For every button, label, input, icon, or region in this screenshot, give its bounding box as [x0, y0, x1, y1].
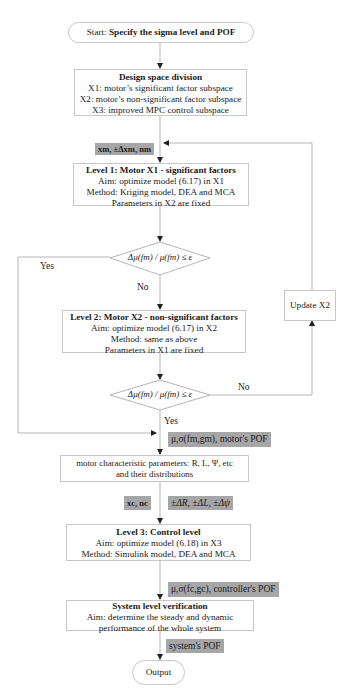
controller-pof-label: μ,σ(fc,gc), controller's POF	[168, 582, 279, 597]
control-vars-label: xc, nc	[124, 496, 151, 510]
level2-box: Level 2: Motor X2 - non-significant fact…	[62, 310, 246, 353]
motor-params-line: motor characteristic parameters: R, L, Ψ…	[61, 458, 248, 469]
decision1-no-label: No	[137, 282, 149, 292]
update-x2-box: Update X2	[284, 290, 336, 321]
design-space-line: X1: motor’s significant factor subspace	[75, 83, 246, 94]
decision1-condition: Δμ(fm) / μ(fm) ≤ ε	[110, 252, 210, 262]
level1-box: Level 1: Motor X1 - significant factors …	[73, 163, 249, 206]
design-space-line: X3: improved MPC control subspace	[75, 105, 246, 116]
level3-line: Aim: optimize model (6.18) in X3	[67, 538, 250, 549]
design-space-box: Design space division X1: motor’s signif…	[74, 69, 247, 116]
decision2-condition: Δμ(fm) / μ(fm) ≤ ε	[110, 389, 210, 399]
start-terminal: Start: Specify the sigma level and POF	[68, 22, 254, 43]
decision2-yes-label: Yes	[164, 416, 178, 426]
decision1-yes-label: Yes	[40, 261, 54, 271]
decision2-no-label: No	[238, 382, 250, 392]
level2-line: Parameters in X1 are fixed	[63, 345, 245, 356]
level1-title: Level 1: Motor X1 - significant factors	[74, 165, 248, 176]
level2-line: Method: same as above	[63, 334, 245, 345]
level3-box: Level 3: Control level Aim: optimize mod…	[66, 524, 251, 561]
output-label: Output	[146, 667, 172, 678]
level2-line: Aim: optimize model (6.17) in X2	[63, 323, 245, 334]
level1-line: Method: Kriging model, DEA and MCA	[74, 187, 248, 198]
system-verification-line: performance of the whole system	[67, 623, 253, 634]
motor-vars-label: xm, ±Δxm, nm	[95, 143, 154, 155]
level1-line: Parameters in X2 are fixed	[74, 198, 248, 209]
motor-params-line: and their distributions	[61, 469, 248, 480]
output-terminal: Output	[132, 660, 185, 685]
level2-title: Level 2: Motor X2 - non-significant fact…	[63, 312, 245, 323]
update-x2-label: Update X2	[290, 300, 330, 311]
system-verification-line: Aim: determine the steady and dynamic	[67, 612, 253, 623]
motor-pof-label: μ,σ(fm,gm), motor's POF	[168, 432, 271, 447]
level3-title: Level 3: Control level	[67, 527, 250, 538]
level3-line: Method: Simulink model, DEA and MCA	[67, 549, 250, 560]
system-verification-box: System level verification Aim: determine…	[66, 600, 254, 631]
start-prefix: Start:	[87, 27, 109, 37]
system-verification-title: System level verification	[67, 601, 253, 612]
motor-params-box: motor characteristic parameters: R, L, Ψ…	[60, 455, 249, 482]
design-space-line: X2: motor’s non-significant factor subsp…	[75, 94, 246, 105]
design-space-title: Design space division	[75, 72, 246, 83]
start-title: Specify the sigma level and POF	[109, 27, 235, 37]
level1-line: Aim: optimize model (6.17) in X1	[74, 176, 248, 187]
deltas-label: ±ΔR, ±ΔL, ±Δψ	[168, 496, 233, 510]
system-pof-label: system's POF	[166, 639, 224, 653]
